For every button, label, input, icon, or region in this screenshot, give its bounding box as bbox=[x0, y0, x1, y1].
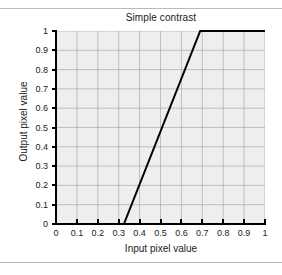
y-tick bbox=[52, 30, 57, 32]
bottom-divider-rule bbox=[0, 262, 282, 263]
x-tick-label: 0.5 bbox=[154, 228, 167, 238]
x-tick-label: 0.3 bbox=[112, 228, 125, 238]
y-tick bbox=[52, 204, 57, 206]
x-axis-title: Input pixel value bbox=[56, 243, 266, 254]
y-tick bbox=[52, 127, 57, 129]
x-tick-label: 0 bbox=[53, 228, 58, 238]
y-tick-label: 0.1 bbox=[35, 200, 48, 210]
x-tick bbox=[118, 219, 120, 224]
y-tick-label: 0.3 bbox=[35, 161, 48, 171]
x-tick bbox=[243, 219, 245, 224]
x-tick bbox=[160, 219, 162, 224]
x-tick-label: 0.4 bbox=[133, 228, 146, 238]
y-tick bbox=[52, 69, 57, 71]
x-tick bbox=[201, 219, 203, 224]
y-tick-label: 0.7 bbox=[35, 84, 48, 94]
x-tick bbox=[264, 219, 266, 224]
x-tick-label: 1 bbox=[262, 228, 267, 238]
y-tick-label: 0.8 bbox=[35, 65, 48, 75]
y-tick bbox=[52, 49, 57, 51]
top-divider-rule bbox=[0, 8, 282, 9]
y-tick-label: 0.4 bbox=[35, 142, 48, 152]
data-line bbox=[56, 31, 265, 224]
x-tick-label: 0.9 bbox=[238, 228, 251, 238]
y-tick bbox=[52, 88, 57, 90]
y-tick-label: 0 bbox=[43, 219, 48, 229]
figure-container: Simple contrast 00.10.20.30.40.50.60.70.… bbox=[0, 0, 282, 275]
x-tick-label: 0.2 bbox=[92, 228, 105, 238]
y-tick-label: 0.2 bbox=[35, 180, 48, 190]
x-tick bbox=[180, 219, 182, 224]
chart-title: Simple contrast bbox=[56, 12, 266, 23]
y-tick-label: 0.9 bbox=[35, 45, 48, 55]
x-tick-label: 0.7 bbox=[196, 228, 209, 238]
y-tick bbox=[52, 184, 57, 186]
y-tick bbox=[52, 223, 57, 225]
y-axis-title: Output pixel value bbox=[18, 52, 29, 192]
y-tick bbox=[52, 107, 57, 109]
y-tick-label: 0.5 bbox=[35, 123, 48, 133]
y-tick bbox=[52, 165, 57, 167]
series-line bbox=[56, 31, 265, 224]
x-tick bbox=[139, 219, 141, 224]
x-tick bbox=[76, 219, 78, 224]
x-tick-label: 0.6 bbox=[175, 228, 188, 238]
y-tick-label: 1 bbox=[43, 26, 48, 36]
x-tick bbox=[222, 219, 224, 224]
x-tick bbox=[97, 219, 99, 224]
x-tick-label: 0.8 bbox=[217, 228, 230, 238]
plot-area bbox=[56, 31, 265, 224]
y-tick-label: 0.6 bbox=[35, 103, 48, 113]
x-tick-label: 0.1 bbox=[71, 228, 84, 238]
y-tick bbox=[52, 146, 57, 148]
